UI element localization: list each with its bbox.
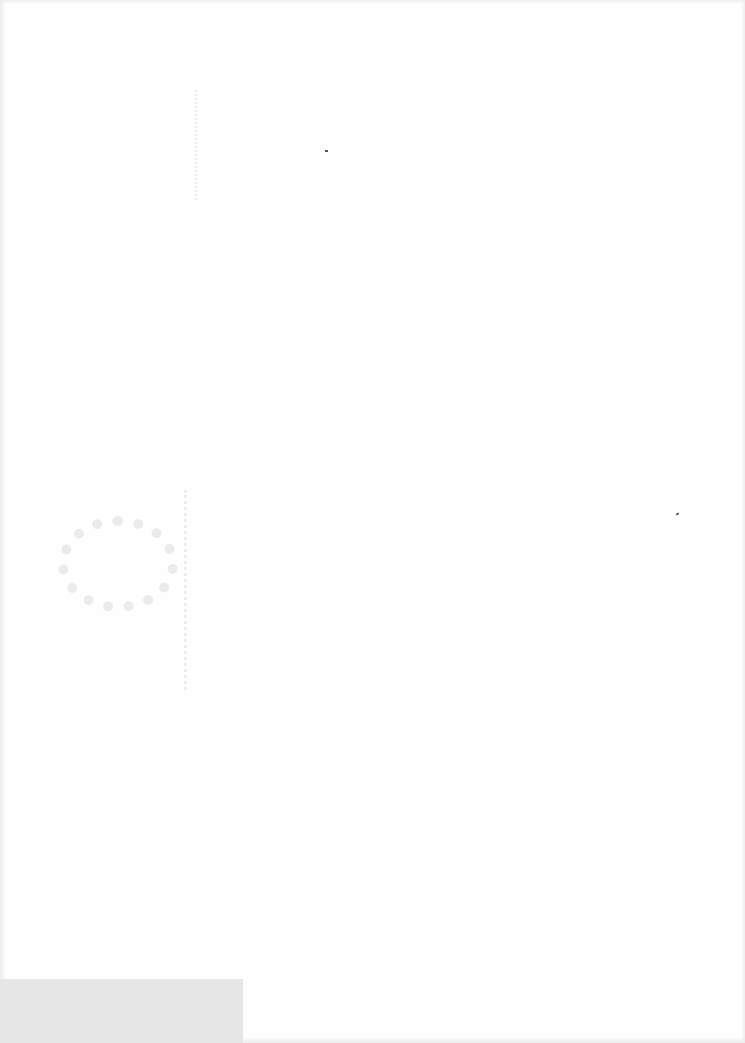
- grey-scan-block: [0, 979, 243, 1043]
- scan-edge-right: [741, 0, 745, 1043]
- scan-edge-left: [0, 0, 6, 1043]
- scan-edge-top: [0, 0, 745, 4]
- ink-speck: [325, 150, 328, 152]
- bleed-through-mark: [184, 490, 217, 690]
- circular-smudge: [58, 516, 178, 612]
- ink-speck: [676, 512, 680, 515]
- scanned-page: [0, 0, 745, 1043]
- scan-edge-bottom: [243, 1037, 745, 1043]
- bleed-through-mark: [195, 90, 200, 200]
